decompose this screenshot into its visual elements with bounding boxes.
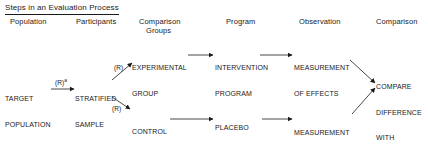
flow-arrows — [0, 0, 428, 145]
arrow-sample-to-experimental — [112, 63, 132, 80]
arrow-measurement-top-to-compare — [350, 60, 375, 83]
arrow-measurement-bottom-to-compare — [352, 88, 375, 114]
arrow-sample-to-control — [112, 97, 130, 109]
